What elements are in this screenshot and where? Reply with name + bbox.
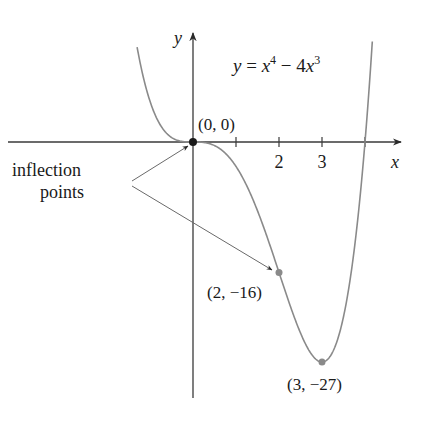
x-tick-label: 2 bbox=[275, 152, 284, 172]
minimum-point bbox=[319, 359, 326, 366]
function-graph: x y 23 y = x4 − 4x3 inflection points (0… bbox=[0, 0, 427, 423]
point-label-origin: (0, 0) bbox=[198, 115, 235, 134]
x-tick-label: 3 bbox=[318, 152, 327, 172]
annotation-arrow-origin bbox=[132, 146, 188, 181]
eq-exp2: 3 bbox=[314, 53, 320, 67]
inflection-point bbox=[189, 138, 197, 146]
x-axis-label: x bbox=[390, 152, 399, 172]
point-label-inflection-2: (2, −16) bbox=[207, 283, 262, 302]
eq-equals: = bbox=[241, 55, 261, 76]
inflection-point bbox=[276, 269, 283, 276]
annotation-line1: inflection bbox=[12, 160, 81, 180]
equation-label: y = x4 − 4x3 bbox=[231, 53, 320, 76]
annotation-arrow-2-16 bbox=[132, 186, 272, 270]
eq-minus: − 4 bbox=[276, 55, 306, 76]
y-axis-label: y bbox=[172, 28, 182, 48]
annotation-line2: points bbox=[40, 182, 84, 202]
point-label-minimum: (3, −27) bbox=[287, 375, 342, 394]
function-curve bbox=[137, 42, 372, 363]
x-tick-labels: 23 bbox=[275, 152, 327, 172]
eq-lhs: y bbox=[231, 55, 242, 76]
marked-points bbox=[189, 138, 326, 366]
